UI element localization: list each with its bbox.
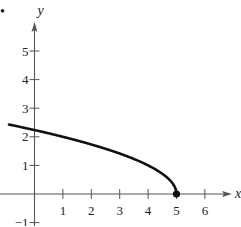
bullet-marker: • [0, 4, 5, 19]
y-axis-label: y [36, 3, 45, 18]
y-tick-label: 3 [22, 101, 29, 116]
x-tick-label: 1 [60, 203, 67, 218]
x-axis-label: x [234, 186, 241, 201]
y-tick-label: −1 [15, 215, 29, 226]
ticks: 123456−112345 [15, 44, 209, 227]
y-tick-label: 1 [22, 158, 29, 173]
x-tick-label: 2 [88, 203, 95, 218]
graph: • xy 123456−112345 [0, 0, 241, 226]
y-tick-label: 4 [22, 72, 29, 87]
y-tick-label: 2 [22, 129, 29, 144]
x-tick-label: 4 [145, 203, 152, 218]
x-tick-label: 6 [202, 203, 209, 218]
y-tick-label: 5 [22, 44, 29, 59]
x-tick-label: 5 [173, 203, 180, 218]
x-tick-label: 3 [116, 203, 123, 218]
endpoint-dot [173, 190, 180, 197]
